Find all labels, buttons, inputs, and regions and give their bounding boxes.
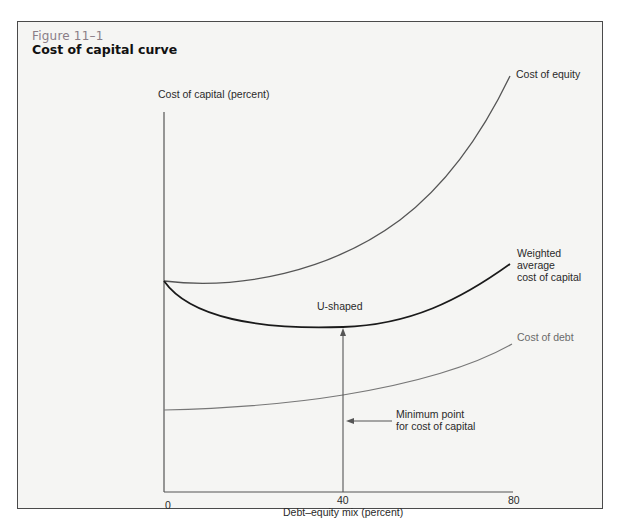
wacc-curve [164,264,510,327]
minimum-point-label-line1: Minimum point [396,408,464,420]
wacc-label-line3: cost of capital [517,271,581,283]
wacc-label-line1: Weighted [517,247,561,259]
x-tick-80: 80 [508,494,520,506]
chart-plot: Cost of capital (percent) 0 40 80 Debt–e… [0,0,635,530]
x-tick-40: 40 [337,494,349,506]
minimum-point-label-line2: for cost of capital [396,420,475,432]
wacc-label-line2: average [517,259,555,271]
cost-of-equity-label: Cost of equity [516,68,581,80]
cost-of-debt-curve [164,344,512,410]
x-axis-label: Debt–equity mix (percent) [283,506,403,518]
y-axis-label: Cost of capital (percent) [158,88,269,100]
cost-of-debt-label: Cost of debt [517,331,574,343]
cost-of-equity-curve [164,76,510,283]
u-shaped-label: U-shaped [317,300,363,312]
x-tick-0: 0 [165,499,171,511]
